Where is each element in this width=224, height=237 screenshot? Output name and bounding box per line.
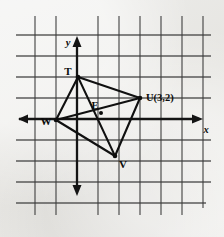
- geometry-diagram: T U(3,2) V W E y x: [0, 0, 224, 237]
- arrow-down-icon: [73, 185, 82, 196]
- label-axis-x: x: [202, 124, 208, 135]
- label-point-V: V: [119, 158, 127, 170]
- label-point-W: W: [41, 115, 52, 127]
- axis-labels: y x: [64, 37, 209, 135]
- arrow-up-icon: [73, 36, 82, 47]
- vertex-dot-E: [99, 111, 103, 115]
- vertex-dot-V: [113, 154, 118, 159]
- vertex-dot-U: [138, 96, 143, 101]
- label-point-T: T: [64, 65, 72, 77]
- label-point-E: E: [91, 100, 98, 111]
- label-point-U: U(3,2): [146, 92, 174, 104]
- arrow-left-icon: [18, 115, 28, 124]
- vertex-dot-T: [76, 75, 81, 80]
- figure-canvas: T U(3,2) V W E y x: [0, 0, 224, 237]
- point-labels: T U(3,2) V W E: [41, 65, 175, 170]
- label-axis-y: y: [64, 37, 71, 48]
- vertex-dot-W: [54, 118, 59, 123]
- arrow-right-icon: [192, 115, 203, 124]
